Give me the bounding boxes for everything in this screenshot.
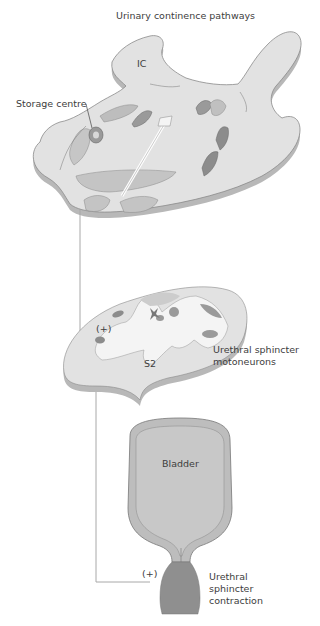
label-spinal-plus: (+)	[96, 323, 111, 335]
onuf-nucleus	[95, 337, 105, 344]
label-motoneurons: Urethral sphincter motoneurons	[213, 344, 299, 368]
label-sphincter-plus: (+)	[142, 568, 157, 580]
urethral-sphincter	[160, 562, 200, 614]
label-contraction-line3: contraction	[209, 595, 263, 607]
label-s2: S2	[144, 358, 156, 370]
label-storage-centre: Storage centre	[16, 98, 87, 110]
label-motoneurons-line1: Urethral sphincter	[213, 344, 299, 356]
label-bladder: Bladder	[162, 458, 199, 470]
label-sphincter-contraction: Urethral sphincter contraction	[209, 571, 263, 607]
label-contraction-line1: Urethral	[209, 571, 263, 583]
bladder	[128, 418, 232, 562]
label-contraction-line2: sphincter	[209, 583, 263, 595]
diagram-title: Urinary continence pathways	[116, 10, 255, 22]
label-ic: IC	[137, 58, 146, 70]
label-motoneurons-line2: motoneurons	[213, 356, 299, 368]
diagram-canvas	[0, 0, 320, 626]
brainstem-section	[33, 32, 301, 218]
